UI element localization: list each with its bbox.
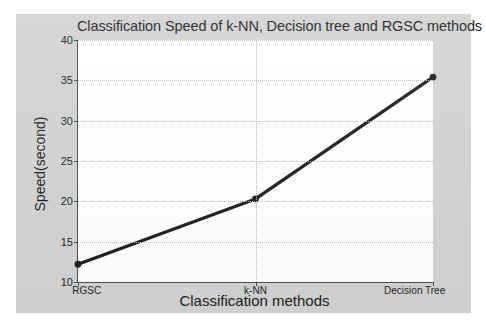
y-tick-mark (74, 242, 78, 243)
y-tick-mark (74, 80, 78, 81)
chart-figure: Classification Speed of k-NN, Decision t… (16, 14, 471, 313)
y-tick-label: 15 (61, 236, 73, 248)
y-tick-label: 35 (61, 74, 73, 86)
y-tick-mark (74, 161, 78, 162)
y-tick-mark (74, 201, 78, 202)
y-tick-label: 25 (61, 155, 73, 167)
plot-area: 10152025303540RGSCk-NNDecision Tree (77, 40, 433, 283)
y-tick-label: 20 (61, 195, 73, 207)
chart-title: Classification Speed of k-NN, Decision t… (77, 18, 477, 34)
y-tick-label: 40 (61, 34, 73, 46)
y-tick-label: 10 (61, 276, 73, 288)
data-point-rgsc (75, 261, 82, 268)
x-axis-title: Classification methods (77, 292, 432, 309)
y-axis-title: Speed(second) (32, 117, 48, 212)
y-tick-mark (74, 40, 78, 41)
y-tick-label: 30 (61, 115, 73, 127)
y-tick-mark (74, 121, 78, 122)
gridline-vertical (256, 40, 257, 282)
